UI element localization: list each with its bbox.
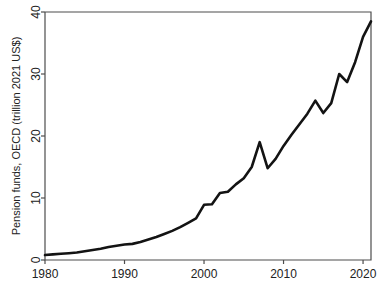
x-tick-label: 2020 bbox=[350, 267, 377, 281]
x-tick-label: 2010 bbox=[270, 267, 297, 281]
y-tick-label: 0 bbox=[29, 256, 43, 263]
chart-figure: 010203040 19801990200020102020 Pension f… bbox=[0, 0, 387, 290]
y-tick-label: 20 bbox=[29, 129, 43, 143]
y-tick-label: 10 bbox=[29, 191, 43, 205]
x-tick-label: 2000 bbox=[191, 267, 218, 281]
chart-background bbox=[0, 0, 387, 290]
y-tick-label: 30 bbox=[29, 67, 43, 81]
x-tick-label: 1980 bbox=[32, 267, 59, 281]
line-chart-canvas: 010203040 19801990200020102020 Pension f… bbox=[0, 0, 387, 290]
x-tick-label: 1990 bbox=[111, 267, 138, 281]
y-axis-title: Pension funds, OECD (trillion 2021 US$) bbox=[10, 37, 22, 236]
y-tick-label: 40 bbox=[29, 5, 43, 19]
